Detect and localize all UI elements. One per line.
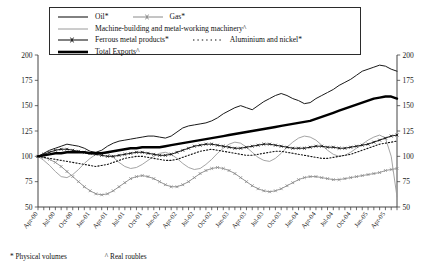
legend-entry-ferrous: Ferrous metal products* — [56, 35, 169, 45]
svg-text:Jan-04: Jan-04 — [283, 210, 300, 229]
legend-entry-gas: Gas* — [131, 12, 186, 22]
legend-key-ferrous-icon — [56, 35, 90, 45]
legend-row-2: Machine-building and metal-working machi… — [56, 23, 354, 34]
svg-text:150: 150 — [21, 101, 33, 110]
svg-text:200: 200 — [403, 51, 415, 60]
svg-text:Jul-01: Jul-01 — [110, 210, 126, 227]
svg-text:Oct-02: Oct-02 — [196, 210, 213, 229]
svg-text:175: 175 — [403, 76, 415, 85]
legend-key-oil-icon — [56, 12, 90, 22]
svg-text:200: 200 — [21, 51, 33, 60]
footnote-physical-volumes: * Physical volumes — [10, 252, 67, 261]
legend-label-aluminium: Aluminium and nickel* — [230, 35, 302, 45]
legend-row-4: Total Exports^ — [56, 46, 354, 57]
legend-label-oil: Oil* — [95, 12, 109, 22]
svg-text:100: 100 — [21, 152, 33, 161]
svg-text:Jul-04: Jul-04 — [318, 210, 334, 228]
svg-text:125: 125 — [21, 127, 33, 136]
series-group — [37, 65, 399, 197]
legend-label-gas: Gas* — [170, 12, 186, 22]
svg-text:Apr-05: Apr-05 — [369, 210, 387, 230]
svg-text:Oct-04: Oct-04 — [335, 210, 352, 229]
svg-text:75: 75 — [403, 177, 411, 186]
chart-legend: Oil* Gas* Machine-building and metal-wor… — [49, 7, 361, 55]
legend-entry-total: Total Exports^ — [56, 47, 140, 57]
svg-text:75: 75 — [25, 177, 33, 186]
svg-text:Oct-03: Oct-03 — [265, 210, 282, 229]
footnotes: * Physical volumes ^ Real roubles — [10, 252, 147, 261]
svg-text:Jan-01: Jan-01 — [75, 210, 91, 228]
svg-text:Apr-03: Apr-03 — [230, 210, 248, 230]
export-index-line-chart: 50507575100100125125150150175175200200 A… — [0, 0, 435, 272]
legend-entry-machine: Machine-building and metal-working machi… — [56, 24, 246, 34]
svg-text:Apr-04: Apr-04 — [300, 210, 318, 230]
svg-text:Jan-02: Jan-02 — [144, 210, 160, 228]
legend-entry-oil: Oil* — [56, 12, 109, 22]
legend-key-total-icon — [56, 47, 90, 57]
svg-text:Jul-03: Jul-03 — [249, 210, 265, 228]
svg-text:Apr-01: Apr-01 — [91, 210, 108, 229]
svg-text:Jan-03: Jan-03 — [214, 210, 231, 229]
svg-text:Apr-00: Apr-00 — [22, 210, 40, 230]
legend-row-3: Ferrous metal products* Aluminium and ni… — [56, 35, 354, 46]
svg-text:150: 150 — [403, 101, 415, 110]
svg-text:100: 100 — [403, 152, 415, 161]
svg-text:Apr-02: Apr-02 — [161, 210, 178, 229]
legend-key-aluminium-icon — [191, 35, 225, 45]
svg-text:Oct-00: Oct-00 — [57, 210, 74, 229]
footnote-real-roubles: ^ Real roubles — [105, 252, 147, 261]
svg-text:175: 175 — [21, 76, 33, 85]
legend-entry-aluminium: Aluminium and nickel* — [191, 35, 302, 45]
legend-label-machine: Machine-building and metal-working machi… — [95, 24, 246, 34]
svg-text:Jul-00: Jul-00 — [40, 210, 56, 228]
svg-text:Jul-02: Jul-02 — [179, 210, 195, 227]
svg-text:Oct-01: Oct-01 — [126, 210, 143, 229]
svg-text:50: 50 — [403, 203, 411, 212]
axes-group: 50507575100100125125150150175175200200 — [21, 51, 414, 212]
svg-text:Jan-05: Jan-05 — [352, 210, 369, 229]
svg-text:50: 50 — [25, 203, 33, 212]
legend-row-1: Oil* Gas* — [56, 12, 354, 23]
legend-key-machine-icon — [56, 24, 90, 34]
svg-text:125: 125 — [403, 127, 415, 136]
x-axis-labels: Apr-00Jul-00Oct-00Jan-01Apr-01Jul-01Oct-… — [22, 210, 387, 230]
legend-label-total: Total Exports^ — [95, 47, 140, 57]
legend-label-ferrous: Ferrous metal products* — [95, 35, 169, 45]
legend-key-gas-icon — [131, 12, 165, 22]
